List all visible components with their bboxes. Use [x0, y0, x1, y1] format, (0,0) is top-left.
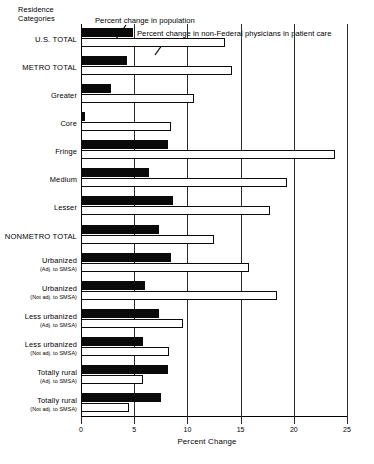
- x-tick-0: [81, 417, 82, 424]
- x-tick-25: [347, 417, 348, 424]
- x-axis-title: Percent Change: [0, 437, 374, 446]
- bar-population: [81, 84, 111, 93]
- bar-population: [81, 365, 168, 374]
- category-label-text: Less urbanized: [25, 312, 77, 321]
- category-label-text: Core: [60, 119, 77, 128]
- x-tick-label-15: 15: [237, 426, 245, 433]
- bar-physicians: [81, 38, 225, 47]
- category-label: Fringe: [55, 145, 77, 156]
- category-label: Greater: [51, 89, 77, 100]
- category-label: Totally rural(Adj. to SMSA): [37, 366, 77, 385]
- category-label-sub: (Adj. to SMSA): [40, 265, 77, 273]
- x-tick-label-25: 25: [343, 426, 351, 433]
- bar-group: [81, 108, 347, 136]
- category-label: Medium: [50, 173, 77, 184]
- bar-population: [81, 196, 173, 205]
- x-tick-label-5: 5: [132, 426, 136, 433]
- category-label: Totally rural(Not adj. to SMSA): [30, 394, 77, 413]
- category-label-text: Totally rural: [37, 396, 77, 405]
- bar-population: [81, 140, 168, 149]
- category-label: U.S. TOTAL: [35, 33, 77, 44]
- plot-area: [81, 24, 347, 417]
- category-label-text: Lesser: [54, 203, 77, 212]
- category-label-text: Urbanized: [42, 256, 77, 265]
- bar-population: [81, 337, 143, 346]
- category-label-text: Greater: [51, 91, 77, 100]
- category-label: Lesser: [54, 201, 77, 212]
- x-tick-5: [134, 417, 135, 424]
- bar-physicians: [81, 94, 194, 103]
- category-label-text: METRO TOTAL: [22, 63, 77, 72]
- category-label: METRO TOTAL: [22, 61, 77, 72]
- bar-group: [81, 52, 347, 80]
- category-label-sub: (Not adj. to SMSA): [25, 349, 77, 357]
- bar-group: [81, 249, 347, 277]
- bar-group: [81, 24, 347, 52]
- bar-population: [81, 56, 127, 65]
- bar-population: [81, 225, 159, 234]
- bar-group: [81, 221, 347, 249]
- category-label-text: Medium: [50, 175, 77, 184]
- bar-group: [81, 333, 347, 361]
- bar-physicians: [81, 291, 277, 300]
- bar-group: [81, 80, 347, 108]
- bar-population: [81, 112, 85, 121]
- bar-physicians: [81, 122, 171, 131]
- category-label-text: NONMETRO TOTAL: [5, 232, 77, 241]
- bar-population: [81, 393, 161, 402]
- x-tick-label-20: 20: [290, 426, 298, 433]
- bar-group: [81, 389, 347, 417]
- bar-chart: Residence Categories Percent change in p…: [0, 0, 374, 464]
- bar-group: [81, 277, 347, 305]
- category-label-text: Less urbanized: [25, 340, 77, 349]
- bar-physicians: [81, 235, 214, 244]
- bar-group: [81, 305, 347, 333]
- bar-group: [81, 192, 347, 220]
- category-label-text: Totally rural: [37, 368, 77, 377]
- x-tick-10: [187, 417, 188, 424]
- x-tick-label-10: 10: [183, 426, 191, 433]
- category-label-sub: (Adj. to SMSA): [37, 377, 77, 385]
- category-label-text: U.S. TOTAL: [35, 35, 77, 44]
- category-label-sub: (Not adj. to SMSA): [30, 293, 77, 301]
- bar-population: [81, 253, 171, 262]
- bar-physicians: [81, 403, 129, 412]
- category-label: Less urbanized(Not adj. to SMSA): [25, 338, 77, 357]
- bar-physicians: [81, 150, 335, 159]
- bar-population: [81, 28, 133, 37]
- bar-physicians: [81, 319, 183, 328]
- category-label-sub: (Not adj. to SMSA): [30, 405, 77, 413]
- category-label: Core: [60, 117, 77, 128]
- bar-physicians: [81, 206, 270, 215]
- y-axis-title: Residence Categories: [18, 6, 55, 23]
- category-label-sub: (Adj. to SMSA): [25, 321, 77, 329]
- gridline-25: [347, 24, 348, 417]
- bar-population: [81, 309, 159, 318]
- category-label-text: Urbanized: [42, 284, 77, 293]
- x-tick-20: [294, 417, 295, 424]
- category-label: NONMETRO TOTAL: [5, 230, 77, 241]
- category-label: Urbanized(Not adj. to SMSA): [30, 282, 77, 301]
- bar-physicians: [81, 263, 249, 272]
- bar-population: [81, 168, 149, 177]
- bar-physicians: [81, 178, 287, 187]
- x-tick-label-0: 0: [79, 426, 83, 433]
- bar-group: [81, 136, 347, 164]
- category-label-text: Fringe: [55, 147, 77, 156]
- bar-population: [81, 281, 145, 290]
- category-label: Less urbanized(Adj. to SMSA): [25, 310, 77, 329]
- bar-group: [81, 164, 347, 192]
- x-tick-15: [241, 417, 242, 424]
- bar-physicians: [81, 347, 169, 356]
- bar-group: [81, 361, 347, 389]
- category-label: Urbanized(Adj. to SMSA): [40, 254, 77, 273]
- bar-physicians: [81, 66, 232, 75]
- bar-physicians: [81, 375, 143, 384]
